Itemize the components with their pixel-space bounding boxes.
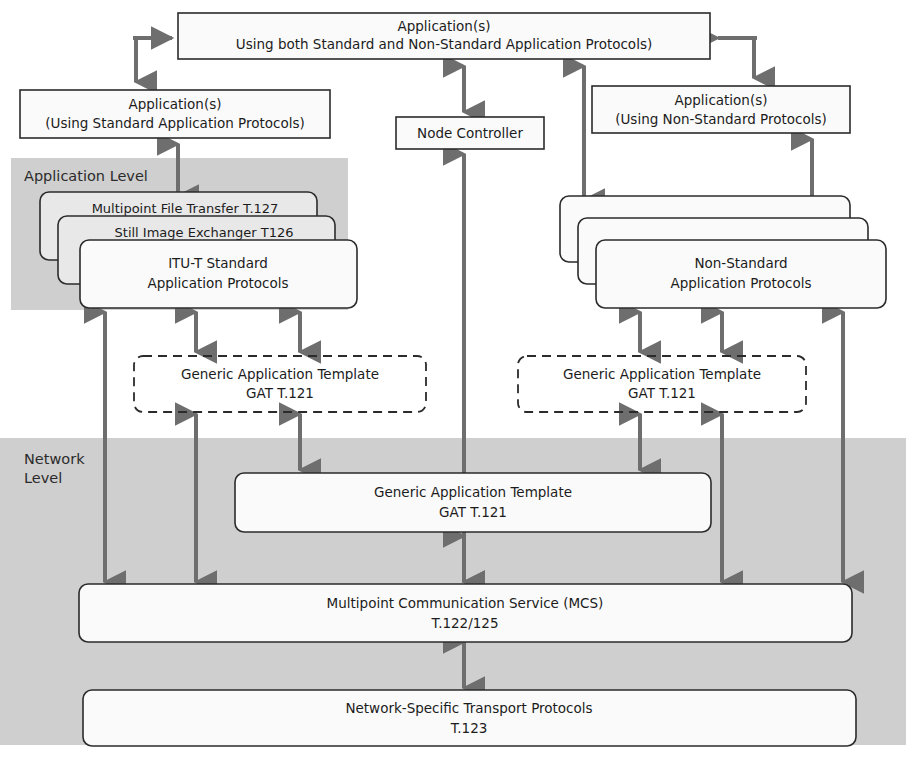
box-transport-line1: Network-Specific Transport Protocols [345, 700, 592, 716]
box-gat-left-line2: GAT T.121 [246, 385, 314, 401]
box-gat-left-line1: Generic Application Template [181, 366, 379, 382]
box-node-controller[interactable]: Node Controller [396, 117, 544, 149]
box-node-controller-label: Node Controller [417, 125, 523, 141]
box-transport-line2: T.123 [450, 720, 488, 736]
architecture-diagram: Application Level Network Level Applicat… [0, 0, 906, 764]
network-level-label-line2: Level [24, 470, 62, 486]
stack-card-still-image-exchanger-label: Still Image Exchanger T126 [115, 225, 294, 240]
box-application-nonstandard-line1: Application(s) [675, 92, 768, 108]
box-mcs-line1: Multipoint Communication Service (MCS) [327, 595, 604, 611]
stack-nonstandard-application-protocols[interactable]: Non-Standard Application Protocols [560, 196, 886, 308]
box-application-standard-line1: Application(s) [129, 96, 222, 112]
stack-card-multipoint-file-transfer-label: Multipoint File Transfer T.127 [92, 201, 279, 216]
diagram-canvas: Application Level Network Level Applicat… [0, 0, 906, 764]
stack-card-itu-t-standard-line2: Application Protocols [147, 275, 288, 291]
box-mcs[interactable]: Multipoint Communication Service (MCS) T… [79, 584, 852, 642]
box-gat-center-line2: GAT T.121 [439, 504, 507, 520]
box-application-both-line2: Using both Standard and Non-Standard App… [236, 36, 652, 52]
box-application-standard-line2: (Using Standard Application Protocols) [45, 115, 304, 131]
stack-card-nonstandard-front[interactable] [596, 240, 886, 308]
box-application-nonstandard-line2: (Using Non-Standard Protocols) [615, 111, 827, 127]
stack-card-itu-t-standard[interactable] [80, 240, 357, 308]
application-level-label: Application Level [24, 168, 148, 184]
network-level-label-line1: Network [24, 451, 85, 467]
box-application-both-line1: Application(s) [398, 18, 491, 34]
box-gat-center[interactable]: Generic Application Template GAT T.121 [235, 473, 711, 532]
stack-card-nonstandard-front-line1: Non-Standard [694, 255, 787, 271]
box-gat-left[interactable]: Generic Application Template GAT T.121 [134, 356, 426, 412]
box-application-both[interactable]: Application(s) Using both Standard and N… [178, 13, 710, 59]
box-gat-center-line1: Generic Application Template [374, 484, 572, 500]
stack-standard-application-protocols[interactable]: Multipoint File Transfer T.127 Still Ima… [40, 192, 357, 308]
stack-card-nonstandard-front-line2: Application Protocols [670, 275, 811, 291]
box-gat-right[interactable]: Generic Application Template GAT T.121 [518, 356, 806, 412]
stack-card-itu-t-standard-line1: ITU-T Standard [168, 255, 268, 271]
box-application-nonstandard[interactable]: Application(s) (Using Non-Standard Proto… [592, 86, 850, 133]
box-gat-right-line2: GAT T.121 [628, 385, 696, 401]
box-mcs-line2: T.122/125 [430, 615, 498, 631]
box-application-standard[interactable]: Application(s) (Using Standard Applicati… [20, 90, 330, 138]
box-network-specific-transport[interactable]: Network-Specific Transport Protocols T.1… [83, 690, 856, 746]
box-gat-right-line1: Generic Application Template [563, 366, 761, 382]
